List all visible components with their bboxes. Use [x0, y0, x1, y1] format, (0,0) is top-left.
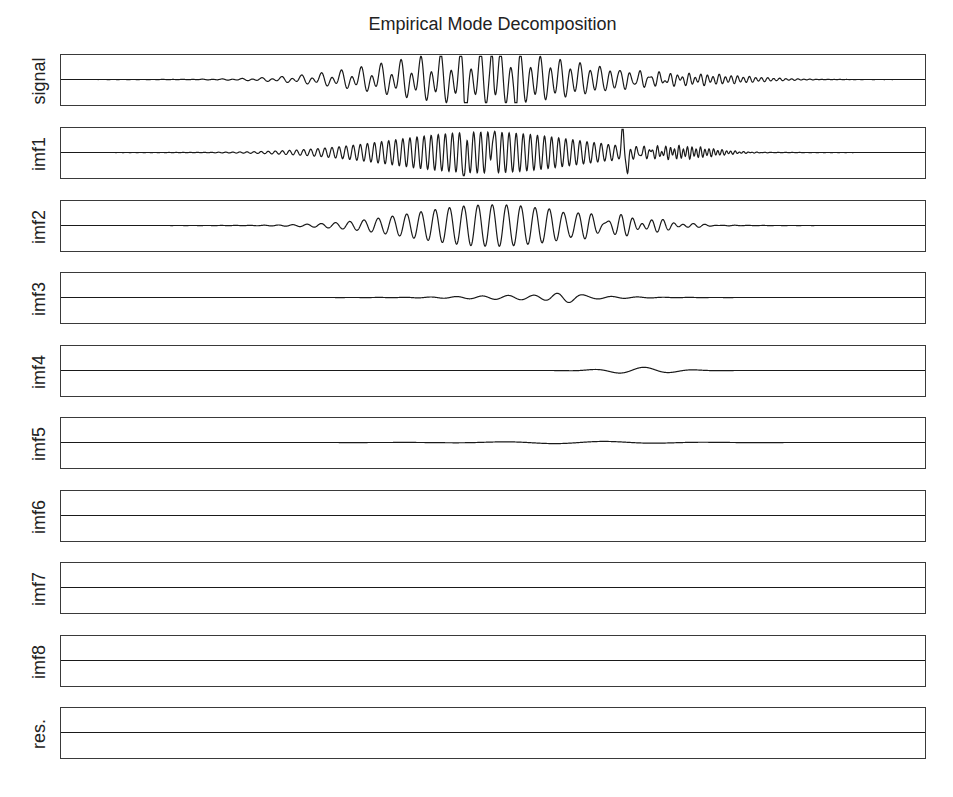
panel-signal: signal	[60, 54, 926, 106]
panel-label: imf4	[13, 346, 65, 398]
panel-imf7: imf7	[60, 562, 926, 614]
panel-label: res.	[13, 708, 65, 760]
waveform-plot	[61, 563, 925, 613]
panel-label-text: signal	[29, 57, 50, 104]
panel-imf1: imf1	[60, 127, 926, 179]
panel-imf8: imf8	[60, 635, 926, 687]
panel-imf3: imf3	[60, 272, 926, 324]
panel-label-text: imf5	[29, 427, 50, 461]
waveform-line	[61, 293, 925, 302]
panel-label: imf3	[13, 273, 65, 325]
chart-title: Empirical Mode Decomposition	[0, 14, 953, 35]
panel-label: imf2	[13, 201, 65, 253]
waveform-line	[61, 56, 925, 102]
panel-imf2: imf2	[60, 200, 926, 252]
waveform-plot	[61, 128, 925, 178]
panel-imf4: imf4	[60, 345, 926, 397]
waveform-plot	[61, 491, 925, 541]
waveform-plot	[61, 418, 925, 468]
waveform-plot	[61, 636, 925, 686]
waveform-plot	[61, 708, 925, 758]
panel-label-text: imf8	[29, 645, 50, 679]
panel-label: signal	[13, 55, 65, 107]
panel-imf5: imf5	[60, 417, 926, 469]
waveform-plot	[61, 273, 925, 323]
waveform-line	[61, 129, 925, 175]
waveform-line	[61, 205, 925, 246]
panel-label: imf7	[13, 563, 65, 615]
panel-label-text: res.	[29, 719, 50, 749]
panel-label: imf6	[13, 491, 65, 543]
waveform-plot	[61, 346, 925, 396]
panel-label: imf5	[13, 418, 65, 470]
panel-label-text: imf2	[29, 210, 50, 244]
waveform-line	[61, 441, 925, 443]
panel-label-text: imf1	[29, 137, 50, 171]
panel-label: imf8	[13, 636, 65, 688]
panel-label-text: imf6	[29, 500, 50, 534]
panel-imf6: imf6	[60, 490, 926, 542]
waveform-plot	[61, 201, 925, 251]
waveform-line	[61, 367, 925, 373]
waveform-plot	[61, 55, 925, 105]
panel-label-text: imf3	[29, 282, 50, 316]
panel-res: res.	[60, 707, 926, 759]
panel-label-text: imf7	[29, 572, 50, 606]
panel-label-text: imf4	[29, 355, 50, 389]
panel-label: imf1	[13, 128, 65, 180]
